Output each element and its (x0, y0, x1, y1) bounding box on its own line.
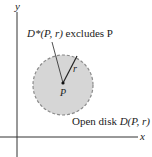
open-disk-label: Open disk D(P, r) (72, 116, 150, 127)
x-axis-label: x (140, 131, 145, 142)
diagram-canvas (0, 0, 152, 157)
y-axis-label: y (15, 1, 20, 12)
center-point (61, 81, 64, 84)
radius-label: r (73, 64, 77, 74)
open-disk (33, 55, 93, 115)
point-label: P (60, 88, 66, 98)
punctured-disk-label: D*(P, r) excludes P (27, 28, 113, 39)
